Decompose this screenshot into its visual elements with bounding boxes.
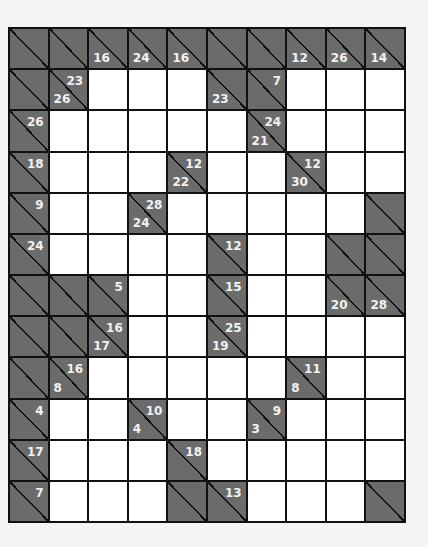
entry-cell[interactable] (327, 400, 365, 439)
entry-cell[interactable] (50, 400, 88, 439)
entry-cell[interactable] (168, 111, 206, 150)
clue-cell: 2824 (129, 194, 167, 233)
entry-cell[interactable] (129, 482, 167, 521)
clue-cell: 1230 (287, 153, 325, 192)
entry-cell[interactable] (248, 194, 286, 233)
entry-cell[interactable] (327, 441, 365, 480)
entry-cell[interactable] (287, 400, 325, 439)
entry-cell[interactable] (168, 358, 206, 397)
entry-cell[interactable] (287, 317, 325, 356)
across-clue: 25 (225, 322, 242, 334)
entry-cell[interactable] (168, 235, 206, 274)
clue-cell: 168 (50, 358, 88, 397)
entry-cell[interactable] (89, 235, 127, 274)
down-clue: 12 (291, 52, 308, 64)
entry-cell[interactable] (168, 70, 206, 109)
entry-cell[interactable] (327, 358, 365, 397)
across-clue: 17 (27, 446, 44, 458)
entry-cell[interactable] (168, 400, 206, 439)
entry-cell[interactable] (287, 276, 325, 315)
entry-cell[interactable] (89, 441, 127, 480)
clue-cell: 24 (10, 235, 48, 274)
entry-cell[interactable] (366, 358, 404, 397)
down-clue: 24 (133, 217, 150, 229)
entry-cell[interactable] (50, 441, 88, 480)
entry-cell[interactable] (89, 111, 127, 150)
entry-cell[interactable] (89, 400, 127, 439)
clue-cell: 18 (168, 441, 206, 480)
entry-cell[interactable] (366, 441, 404, 480)
clue-cell: 28 (366, 276, 404, 315)
down-clue: 16 (93, 52, 110, 64)
entry-cell[interactable] (208, 111, 246, 150)
entry-cell[interactable] (366, 153, 404, 192)
entry-cell[interactable] (129, 111, 167, 150)
entry-cell[interactable] (129, 358, 167, 397)
entry-cell[interactable] (129, 276, 167, 315)
entry-cell[interactable] (327, 194, 365, 233)
entry-cell[interactable] (129, 441, 167, 480)
clue-cell (50, 29, 88, 68)
entry-cell[interactable] (168, 276, 206, 315)
entry-cell[interactable] (208, 194, 246, 233)
clue-cell: 18 (10, 153, 48, 192)
entry-cell[interactable] (129, 235, 167, 274)
entry-cell[interactable] (248, 317, 286, 356)
entry-cell[interactable] (208, 153, 246, 192)
entry-cell[interactable] (50, 482, 88, 521)
entry-cell[interactable] (327, 111, 365, 150)
entry-cell[interactable] (248, 482, 286, 521)
entry-cell[interactable] (287, 235, 325, 274)
entry-cell[interactable] (327, 153, 365, 192)
entry-cell[interactable] (327, 70, 365, 109)
entry-cell[interactable] (248, 235, 286, 274)
entry-cell[interactable] (366, 400, 404, 439)
clue-cell (50, 276, 88, 315)
clue-cell: 12 (208, 235, 246, 274)
entry-cell[interactable] (366, 111, 404, 150)
entry-cell[interactable] (50, 111, 88, 150)
entry-cell[interactable] (287, 111, 325, 150)
clue-cell: 7 (10, 482, 48, 521)
entry-cell[interactable] (287, 194, 325, 233)
entry-cell[interactable] (168, 317, 206, 356)
entry-cell[interactable] (208, 358, 246, 397)
entry-cell[interactable] (50, 153, 88, 192)
across-clue: 12 (304, 158, 321, 170)
clue-cell: 93 (248, 400, 286, 439)
clue-cell: 9 (10, 194, 48, 233)
entry-cell[interactable] (366, 317, 404, 356)
entry-cell[interactable] (327, 482, 365, 521)
across-clue: 7 (35, 487, 43, 499)
entry-cell[interactable] (129, 317, 167, 356)
entry-cell[interactable] (89, 70, 127, 109)
entry-cell[interactable] (50, 194, 88, 233)
clue-cell: 5 (89, 276, 127, 315)
entry-cell[interactable] (248, 153, 286, 192)
clue-cell (10, 29, 48, 68)
entry-cell[interactable] (208, 441, 246, 480)
clue-cell (327, 235, 365, 274)
entry-cell[interactable] (50, 235, 88, 274)
down-clue: 8 (291, 382, 299, 394)
entry-cell[interactable] (168, 194, 206, 233)
entry-cell[interactable] (248, 276, 286, 315)
down-clue: 26 (54, 93, 71, 105)
entry-cell[interactable] (129, 70, 167, 109)
entry-cell[interactable] (89, 482, 127, 521)
down-clue: 17 (93, 340, 110, 352)
entry-cell[interactable] (366, 70, 404, 109)
down-clue: 26 (331, 52, 348, 64)
entry-cell[interactable] (287, 441, 325, 480)
entry-cell[interactable] (248, 358, 286, 397)
clue-cell (208, 29, 246, 68)
entry-cell[interactable] (287, 482, 325, 521)
entry-cell[interactable] (129, 153, 167, 192)
entry-cell[interactable] (327, 317, 365, 356)
entry-cell[interactable] (287, 70, 325, 109)
entry-cell[interactable] (89, 358, 127, 397)
entry-cell[interactable] (208, 400, 246, 439)
entry-cell[interactable] (89, 194, 127, 233)
entry-cell[interactable] (248, 441, 286, 480)
entry-cell[interactable] (89, 153, 127, 192)
